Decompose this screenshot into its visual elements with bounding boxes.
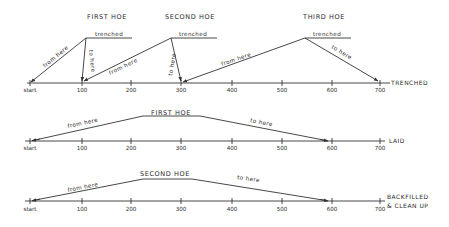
first-hoe-trenched-text: trenched: [95, 31, 123, 37]
laid-from-arrow-head: [32, 139, 40, 141]
backfilled-label-line2: & CLEAN UP: [387, 202, 428, 209]
third-hoe-to-arrow: [305, 38, 378, 81]
backfill-second-hoe-title: SECOND HOE: [140, 170, 190, 178]
third-hoe-trench-group: THIRD HOE trenched from here to here: [183, 13, 378, 82]
laid-to-here-text: to here: [250, 117, 274, 127]
laid-first-hoe-path: [33, 116, 326, 141]
second-hoe-to-here-text: to here: [167, 53, 177, 77]
second-hoe-title: SECOND HOE: [165, 13, 215, 21]
axis-tick-label: start: [23, 87, 37, 93]
second-hoe-backfill-group: SECOND HOE from here to here: [32, 170, 328, 201]
pipeline-construction-diagram: start100200300400500600700 TRENCHED FIRS…: [0, 0, 449, 227]
axis-tick-label: 200: [126, 206, 137, 212]
axis-tick-label: 200: [126, 145, 137, 151]
second-hoe-trench-group: SECOND HOE trenched from here to here: [84, 13, 217, 81]
axis-tick-label: 600: [327, 145, 338, 151]
first-hoe-laying-group: FIRST HOE from here to here: [32, 109, 328, 141]
laid-row: start100200300400500600700 LAID FIRST HO…: [23, 109, 405, 151]
third-hoe-to-here-text: to here: [330, 44, 353, 61]
axis-tick-label: 600: [327, 206, 338, 212]
backfill-from-here-text: from here: [67, 181, 99, 193]
third-hoe-trenched-text: trenched: [313, 31, 341, 37]
axis-tick-label: 300: [176, 206, 187, 212]
axis-tick-label: 700: [375, 206, 386, 212]
axis-tick-label: 200: [126, 87, 137, 93]
axis-tick-label: 300: [176, 87, 187, 93]
first-hoe-title: FIRST HOE: [87, 13, 127, 21]
first-hoe-from-here-text: from here: [42, 44, 70, 69]
backfilled-row: start100200300400500600700 BACKFILLED & …: [23, 170, 428, 212]
backfill-to-here-text: to here: [237, 174, 261, 183]
axis-tick-label: 400: [227, 206, 238, 212]
first-hoe-from-arrow: [31, 38, 86, 82]
axis-tick-label: 500: [277, 87, 288, 93]
axis-tick-label: start: [23, 145, 37, 151]
backfilled-axis-ticks: start100200300400500600700: [23, 198, 385, 212]
first-hoe-to-here-text: to here: [88, 49, 96, 72]
second-hoe-from-arrow: [84, 38, 171, 81]
laid-label: LAID: [389, 137, 405, 144]
axis-tick-label: 500: [277, 206, 288, 212]
third-hoe-title: THIRD HOE: [302, 13, 345, 21]
axis-tick-label: 700: [375, 87, 386, 93]
axis-tick-label: 300: [176, 145, 187, 151]
axis-tick-label: start: [23, 206, 37, 212]
axis-tick-label: 400: [227, 87, 238, 93]
axis-tick-label: 400: [227, 145, 238, 151]
trenched-row: start100200300400500600700 TRENCHED FIRS…: [23, 13, 428, 93]
second-hoe-from-here-text: from here: [108, 57, 139, 76]
laid-axis-ticks: start100200300400500600700: [23, 138, 385, 151]
trenched-axis-ticks: start100200300400500600700: [23, 80, 385, 93]
backfill-from-arrow-head: [32, 199, 40, 201]
axis-tick-label: 100: [77, 87, 88, 93]
backfilled-label-line1: BACKFILLED: [387, 193, 429, 200]
axis-tick-label: 100: [77, 206, 88, 212]
second-hoe-trenched-text: trenched: [179, 31, 207, 37]
axis-tick-label: 100: [77, 145, 88, 151]
third-hoe-from-arrow: [183, 38, 305, 82]
axis-tick-label: 500: [277, 145, 288, 151]
axis-tick-label: 600: [327, 87, 338, 93]
axis-tick-label: 700: [375, 145, 386, 151]
first-hoe-to-arrow: [82, 38, 86, 81]
trenched-label: TRENCHED: [390, 79, 428, 86]
